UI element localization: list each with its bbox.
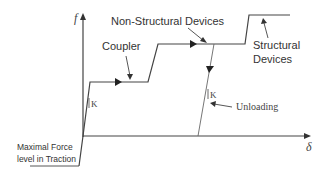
- delta-axis: [83, 133, 311, 139]
- unloading-pointer: [214, 104, 232, 107]
- structural-label-line1: Structural: [253, 39, 300, 51]
- axis-arrow-right-icon: [304, 133, 311, 139]
- unloading-label: Unloading: [236, 101, 278, 112]
- max-force-label-line1: Maximal Force: [17, 142, 73, 152]
- coupler-label: Coupler: [102, 40, 141, 52]
- pointer-arrow-icon: [127, 74, 133, 80]
- unloading-arrow-icon: [206, 66, 214, 73]
- stiffness-label-2: K: [210, 90, 217, 100]
- non-structural-label: Non-Structural Devices: [111, 15, 225, 27]
- pointer-arrow-icon: [261, 18, 267, 24]
- pointer-arrow-icon: [210, 101, 216, 107]
- pointer-arrow-icon: [200, 37, 207, 43]
- structural-pointer: [264, 23, 268, 38]
- stiffness-label-1: K: [91, 99, 98, 109]
- coupler-pointer: [126, 56, 130, 76]
- force-curve: [79, 15, 290, 166]
- f-axis-label: f: [74, 11, 79, 25]
- max-force-label-line2: level in Traction: [17, 154, 76, 164]
- direction-arrow-icon: [115, 78, 122, 86]
- force-displacement-diagram: f δ K K Coupler Non-Structural Devices S…: [0, 0, 331, 174]
- direction-arrow-icon: [190, 40, 197, 48]
- axis-arrow-up-icon: [80, 13, 86, 20]
- delta-axis-label: δ: [306, 140, 312, 154]
- structural-label-line2: Devices: [253, 53, 293, 65]
